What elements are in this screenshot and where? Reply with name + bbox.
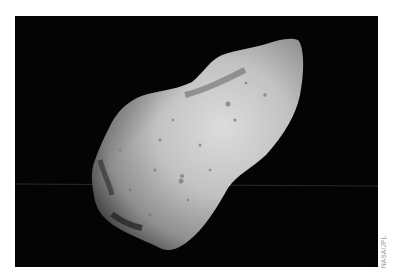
asteroid-illustration [15, 16, 378, 267]
asteroid-photo [15, 16, 378, 267]
photo-credit: NASA/JPL [380, 236, 387, 268]
